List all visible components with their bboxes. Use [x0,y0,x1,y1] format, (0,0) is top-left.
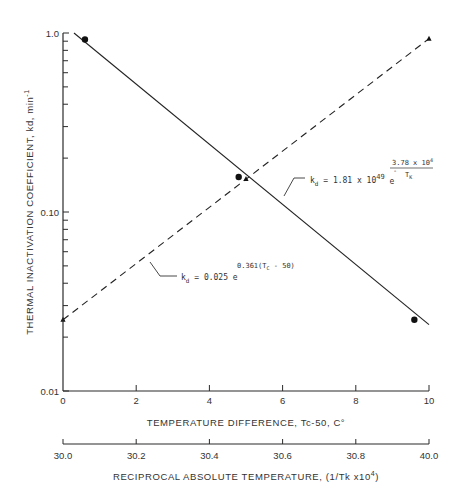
x2-tick-label: 30.6 [273,450,292,461]
chart: 1.00.100.01024681030.030.230.430.630.840… [0,0,458,504]
x-tick-label: 4 [207,395,212,406]
y-axis-title: THERMAL INACTIVATION COEFFICIENT, kd, mi… [23,89,35,335]
y-tick-label: 0.01 [41,386,60,397]
svg-text:3.78 x 104: 3.78 x 104 [392,157,433,167]
x-tick-label: 8 [353,395,358,406]
axes: 1.00.100.01024681030.030.230.430.630.840… [41,28,439,462]
data-point-circle [411,317,417,323]
svg-text:kd = 0.025 e: kd = 0.025 e [181,273,238,284]
y-tick-label: 1.0 [46,28,59,39]
x2-tick-label: 30.4 [200,450,219,461]
svg-text:TK: TK [405,171,412,180]
svg-text:kd = 1.81 x 1049 e: kd = 1.81 x 1049 e [310,173,395,187]
data-point-circle [235,174,241,180]
x2-tick-label: 40.0 [420,450,439,461]
x2-tick-label: 30.2 [127,450,146,461]
x-tick-label: 0 [60,395,65,406]
x2-axis-title: RECIPROCAL ABSOLUTE TEMPERATURE, (1/Tk x… [113,470,379,482]
x2-tick-label: 30.8 [347,450,366,461]
y-tick-label: 0.10 [41,207,60,218]
data-point-triangle [426,36,431,41]
svg-text:0.361(TC - 50): 0.361(TC - 50) [237,262,295,271]
x-tick-label: 10 [424,395,435,406]
equation-dashed-line: kd = 0.025 e 0.361(TC - 50) [150,262,295,284]
data-point-circle [82,36,88,42]
x-tick-label: 2 [134,395,139,406]
equation-solid-line: kd = 1.81 x 1049 e - 3.78 x 104 TK [284,157,433,196]
x-axis-title: TEMPERATURE DIFFERENCE, Tc-50, C° [147,417,346,428]
x2-tick-label: 30.0 [54,450,73,461]
x-tick-label: 6 [280,395,285,406]
